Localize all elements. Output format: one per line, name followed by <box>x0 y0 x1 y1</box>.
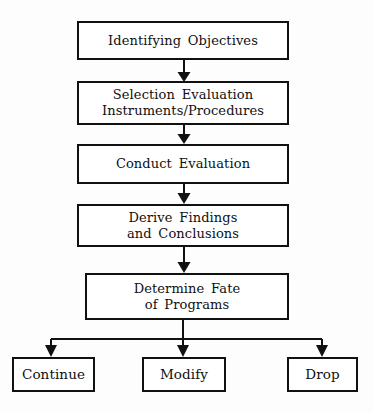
flow-node-modify: Modify <box>142 357 226 392</box>
flow-node-label: Derive Findings and Conclusions <box>127 210 239 242</box>
flow-node-label: Selection Evaluation Instruments/Procedu… <box>102 87 264 119</box>
arrow-conduct-evaluation-to-derive-findings <box>173 182 195 206</box>
branch-determine-fate-to-outcomes <box>40 318 340 360</box>
flow-node-drop: Drop <box>287 357 358 392</box>
flowchart-canvas: Identifying Objectives Selection Evaluat… <box>0 0 373 412</box>
flow-node-label: Identifying Objectives <box>108 33 258 49</box>
flow-node-derive-findings-conclusions: Derive Findings and Conclusions <box>77 204 289 247</box>
flow-node-label: Drop <box>305 366 339 382</box>
arrow-derive-findings-to-determine-fate <box>173 245 195 275</box>
flow-node-determine-fate-of-programs: Determine Fate of Programs <box>85 273 289 320</box>
arrow-identifying-objectives-to-selection-evaluation <box>173 58 195 83</box>
flow-node-label: Modify <box>160 366 208 382</box>
flow-node-identifying-objectives: Identifying Objectives <box>77 21 289 60</box>
flow-node-label: Determine Fate of Programs <box>134 281 241 313</box>
flow-node-conduct-evaluation: Conduct Evaluation <box>77 144 289 184</box>
flow-node-selection-evaluation-instruments: Selection Evaluation Instruments/Procedu… <box>77 81 289 125</box>
flow-node-label: Conduct Evaluation <box>116 156 250 172</box>
flow-node-label: Continue <box>22 366 85 382</box>
arrow-selection-evaluation-to-conduct-evaluation <box>173 123 195 146</box>
flow-node-continue: Continue <box>12 357 95 392</box>
